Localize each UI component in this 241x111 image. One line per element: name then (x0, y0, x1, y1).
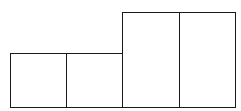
rectangle-tall-2 (179, 12, 236, 108)
rectangle-tall-1 (122, 12, 180, 108)
rectangle-short-1 (10, 53, 67, 108)
rectangle-short-2 (66, 53, 123, 108)
